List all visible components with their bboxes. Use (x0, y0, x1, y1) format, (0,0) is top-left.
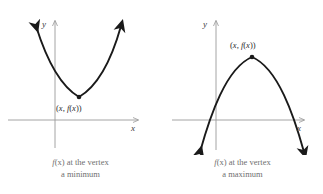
minimum-plot (0, 0, 161, 155)
parabola-vertex-figure: y x (x, f(x)) f(x) at the vertex a minim… (0, 0, 323, 194)
panel-minimum: y x (x, f(x)) f(x) at the vertex a minim… (0, 0, 161, 194)
caption-line-1: f(x) at the vertex (162, 156, 323, 168)
vertex-coordinate-label: (x, f(x)) (56, 104, 82, 113)
caption-line-2: a maximum (162, 168, 323, 180)
caption-line-1: f(x) at the vertex (0, 156, 161, 168)
x-axis-label: x (131, 124, 135, 133)
x-axis-label: x (297, 124, 301, 133)
y-axis-label: y (42, 20, 46, 29)
y-axis-label: y (203, 20, 207, 29)
vertex-coordinate-label: (x, f(x)) (230, 41, 256, 50)
vertex-point (77, 95, 82, 100)
panel-maximum: y x (x, f(x)) f(x) at the vertex a maxim… (162, 0, 323, 194)
upward-parabola-curve (36, 26, 121, 97)
vertex-point (250, 55, 255, 60)
caption-line-2: a minimum (0, 168, 161, 180)
